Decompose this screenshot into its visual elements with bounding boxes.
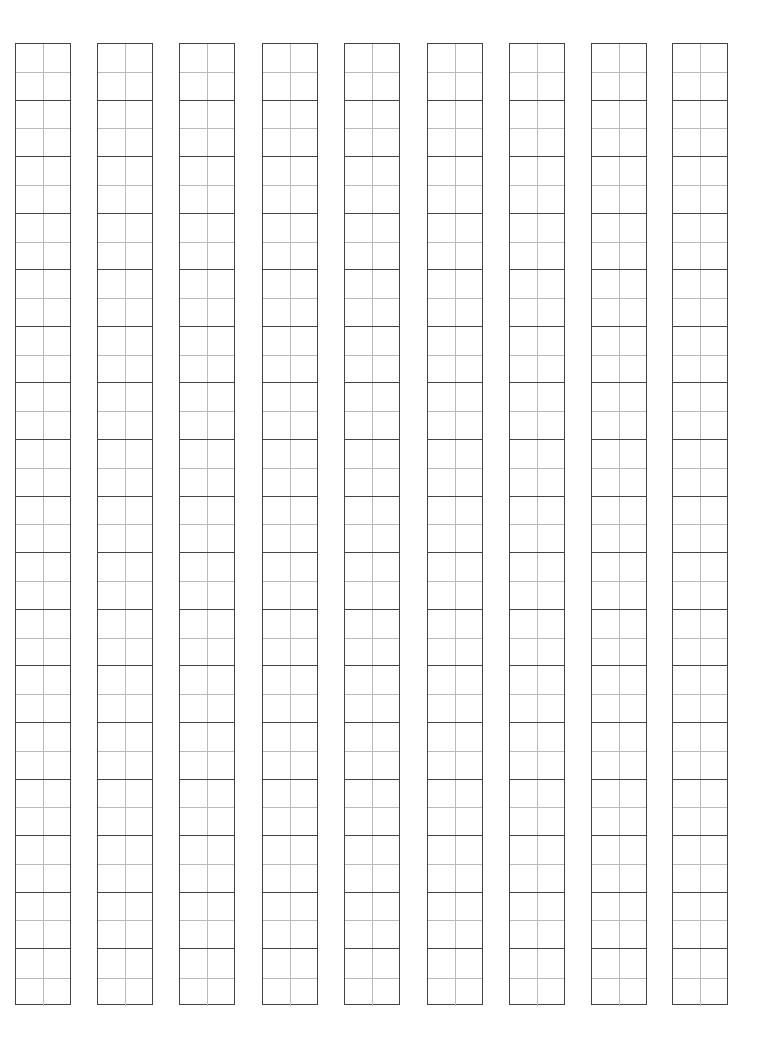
grid-cell — [592, 327, 646, 384]
grid-cell — [98, 893, 152, 950]
grid-cell — [263, 383, 317, 440]
grid-cell — [263, 44, 317, 101]
grid-cell — [673, 497, 727, 554]
grid-cell — [510, 949, 564, 1006]
grid-cell — [510, 327, 564, 384]
grid-cell — [16, 497, 70, 554]
grid-cell — [428, 44, 482, 101]
grid-cell — [263, 780, 317, 837]
grid-cell — [16, 836, 70, 893]
grid-cell — [673, 666, 727, 723]
grid-cell — [345, 553, 399, 610]
grid-cell — [98, 497, 152, 554]
grid-cell — [510, 893, 564, 950]
grid-cell — [510, 383, 564, 440]
grid-cell — [180, 610, 234, 667]
grid-cell — [510, 214, 564, 271]
grid-cell — [592, 949, 646, 1006]
grid-cell — [345, 270, 399, 327]
grid-cell — [592, 836, 646, 893]
grid-cell — [98, 780, 152, 837]
grid-cell — [180, 836, 234, 893]
grid-cell — [263, 723, 317, 780]
grid-cell — [16, 327, 70, 384]
grid-cell — [345, 610, 399, 667]
grid-cell — [180, 157, 234, 214]
grid-cell — [263, 666, 317, 723]
grid-cell — [98, 44, 152, 101]
grid-cell — [428, 327, 482, 384]
grid-column-5 — [344, 43, 400, 1005]
grid-cell — [673, 270, 727, 327]
grid-cell — [428, 101, 482, 158]
grid-cell — [428, 780, 482, 837]
grid-cell — [428, 383, 482, 440]
grid-cell — [180, 101, 234, 158]
grid-cell — [16, 723, 70, 780]
grid-cell — [592, 270, 646, 327]
grid-cell — [16, 383, 70, 440]
grid-cell — [510, 723, 564, 780]
grid-cell — [180, 780, 234, 837]
grid-cell — [345, 666, 399, 723]
grid-cell — [263, 836, 317, 893]
grid-cell — [673, 440, 727, 497]
grid-cell — [592, 497, 646, 554]
grid-cell — [673, 780, 727, 837]
grid-cell — [16, 949, 70, 1006]
grid-cell — [510, 440, 564, 497]
grid-cell — [263, 553, 317, 610]
grid-cell — [263, 949, 317, 1006]
grid-cell — [180, 893, 234, 950]
grid-cell — [180, 553, 234, 610]
grid-cell — [263, 327, 317, 384]
grid-cell — [428, 553, 482, 610]
grid-cell — [180, 327, 234, 384]
grid-cell — [16, 666, 70, 723]
grid-cell — [263, 157, 317, 214]
grid-column-4 — [262, 43, 318, 1005]
grid-cell — [345, 723, 399, 780]
grid-cell — [16, 157, 70, 214]
grid-cell — [98, 157, 152, 214]
grid-cell — [180, 270, 234, 327]
grid-cell — [345, 440, 399, 497]
grid-cell — [98, 101, 152, 158]
grid-cell — [673, 893, 727, 950]
grid-cell — [345, 780, 399, 837]
grid-cell — [592, 553, 646, 610]
grid-column-7 — [509, 43, 565, 1005]
grid-cell — [16, 270, 70, 327]
grid-cell — [592, 440, 646, 497]
grid-cell — [428, 893, 482, 950]
grid-cell — [673, 157, 727, 214]
grid-cell — [263, 101, 317, 158]
grid-cell — [592, 780, 646, 837]
grid-cell — [510, 610, 564, 667]
grid-cell — [510, 157, 564, 214]
grid-cell — [263, 214, 317, 271]
grid-cell — [428, 723, 482, 780]
grid-cell — [98, 440, 152, 497]
grid-cell — [263, 270, 317, 327]
grid-cell — [673, 553, 727, 610]
grid-cell — [673, 214, 727, 271]
grid-cell — [180, 44, 234, 101]
grid-cell — [592, 893, 646, 950]
grid-cell — [16, 893, 70, 950]
grid-cell — [510, 497, 564, 554]
grid-cell — [592, 723, 646, 780]
grid-cell — [345, 214, 399, 271]
grid-cell — [428, 836, 482, 893]
grid-cell — [98, 553, 152, 610]
grid-column-3 — [179, 43, 235, 1005]
grid-cell — [98, 666, 152, 723]
grid-cell — [592, 383, 646, 440]
grid-cell — [428, 270, 482, 327]
grid-cell — [428, 440, 482, 497]
grid-cell — [673, 44, 727, 101]
grid-cell — [98, 327, 152, 384]
grid-cell — [263, 497, 317, 554]
grid-column-1 — [15, 43, 71, 1005]
grid-cell — [16, 440, 70, 497]
